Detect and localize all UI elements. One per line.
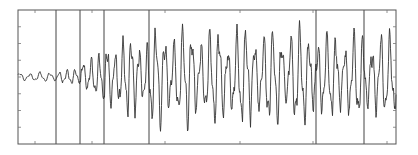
- plot-frame: [18, 10, 396, 144]
- waveform-chart: [0, 0, 418, 155]
- signal-line: [18, 21, 396, 132]
- axis-ticks: [18, 10, 396, 144]
